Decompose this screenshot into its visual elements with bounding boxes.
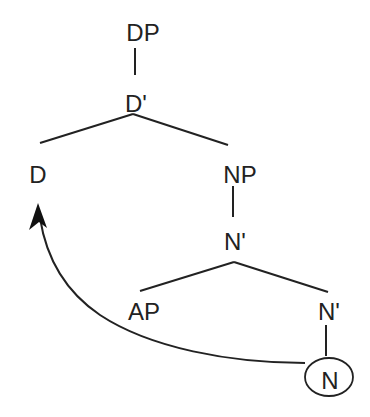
node-nbar-lower: N' — [318, 300, 340, 324]
node-nbar-upper: N' — [224, 230, 246, 254]
node-d: D — [29, 163, 46, 187]
syntax-tree-diagram: DP D' D NP N' AP N' N — [0, 0, 370, 417]
movement-arrow-path — [40, 218, 305, 363]
arrowhead-icon — [29, 203, 47, 230]
tree-lines — [0, 0, 370, 417]
edge-dbar-d — [40, 114, 133, 143]
node-ap: AP — [128, 300, 160, 324]
edge-dbar-np — [133, 114, 228, 145]
node-dp: DP — [126, 21, 159, 45]
node-n: N — [321, 369, 338, 393]
edge-nbar-nbar — [234, 262, 328, 292]
node-dbar: D' — [125, 92, 147, 116]
node-np: NP — [223, 163, 256, 187]
edge-nbar-ap — [140, 262, 234, 291]
